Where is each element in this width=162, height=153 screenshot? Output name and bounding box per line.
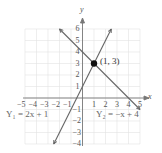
line-2	[60, 29, 141, 110]
x-tick-label: −4	[29, 101, 38, 109]
x-tick-label: 5	[138, 101, 142, 109]
x-tick-label: −5	[17, 101, 26, 109]
y-tick-label: 5	[76, 37, 80, 45]
y-tick-label: −1	[73, 106, 82, 114]
intersection-label: (1, 3)	[100, 57, 120, 65]
y-tick-label: −2	[73, 117, 82, 125]
x-tick-label: 2	[104, 101, 108, 109]
intersection-point	[91, 60, 97, 66]
x-tick-label: 4	[127, 101, 131, 109]
y-tick-label: 3	[76, 60, 80, 68]
y-tick-label: 2	[76, 71, 80, 79]
axes	[23, 18, 149, 146]
x-tick-label: 3	[115, 101, 119, 109]
y-tick-label: 1	[76, 83, 80, 91]
y-tick-label: −3	[73, 129, 82, 137]
y-tick-label: 4	[76, 48, 80, 56]
equation-y2-label: Y₂ = −x + 4	[96, 110, 139, 118]
x-tick-label: −2	[52, 101, 61, 109]
y-axis-label: y	[80, 6, 84, 14]
equation-y1-label: Y₁ = 2x + 1	[6, 110, 48, 118]
x-tick-label: −1	[63, 101, 72, 109]
x-tick-label: 1	[92, 101, 96, 109]
x-tick-label: −3	[40, 101, 49, 109]
y-tick-label: −4	[73, 140, 82, 148]
x-axis-label: x	[148, 93, 152, 101]
y-tick-label: 6	[76, 25, 80, 33]
